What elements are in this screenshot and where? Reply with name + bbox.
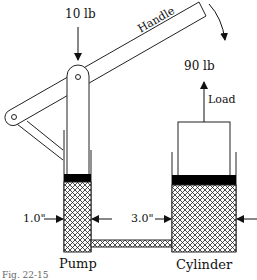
input-force-label: 10 lb [65, 8, 96, 20]
cylinder-diameter-label: 3.0" [131, 213, 154, 224]
top-pivot-icon [76, 75, 81, 80]
cylinder-label: Cylinder [176, 258, 232, 271]
load-label: Load [208, 94, 236, 105]
pump-label: Pump [59, 257, 97, 270]
output-force-label: 90 lb [184, 60, 215, 72]
output-cylinder [172, 122, 236, 252]
connecting-pipe [91, 240, 172, 247]
left-pivot-icon [12, 115, 17, 120]
pump-link [67, 65, 89, 178]
figure-caption: Fig. 22-15 [2, 271, 49, 280]
pump-piston [64, 174, 91, 182]
cylinder-piston [172, 175, 236, 185]
load-block [178, 122, 230, 176]
support-strut [17, 121, 63, 160]
pump-diameter-label: 1.0" [23, 213, 46, 224]
handle-bar[interactable] [5, 2, 206, 126]
cylinder-fluid [172, 185, 236, 252]
rotation-arrow-icon [209, 4, 225, 40]
pump-fluid [64, 182, 91, 252]
